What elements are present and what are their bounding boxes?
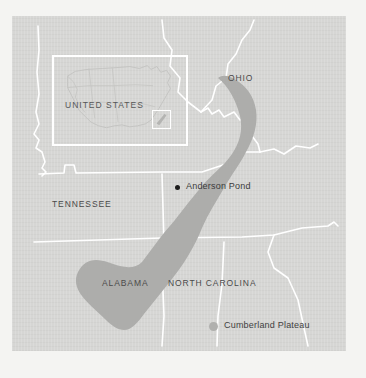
label-tennessee: TENNESSEE — [52, 199, 112, 209]
label-ohio: OHIO — [228, 73, 253, 83]
inset-locator-box — [152, 110, 171, 129]
legend-plateau-swatch — [209, 322, 218, 331]
label-north-carolina: NORTH CAROLINA — [168, 278, 256, 288]
legend-plateau-label: Cumberland Plateau — [224, 320, 310, 330]
anderson-pond-label: Anderson Pond — [186, 181, 251, 191]
label-alabama: ALABAMA — [102, 278, 148, 288]
figure-canvas: Anderson Pond OHIO TENNESSEE ALABAMA NOR… — [0, 0, 366, 378]
inset-title: UNITED STATES — [65, 100, 144, 110]
united-states-inset: UNITED STATES — [52, 55, 188, 146]
inset-plateau-sliver — [153, 111, 170, 128]
map-panel: Anderson Pond OHIO TENNESSEE ALABAMA NOR… — [12, 16, 346, 351]
anderson-pond-marker — [175, 185, 180, 190]
